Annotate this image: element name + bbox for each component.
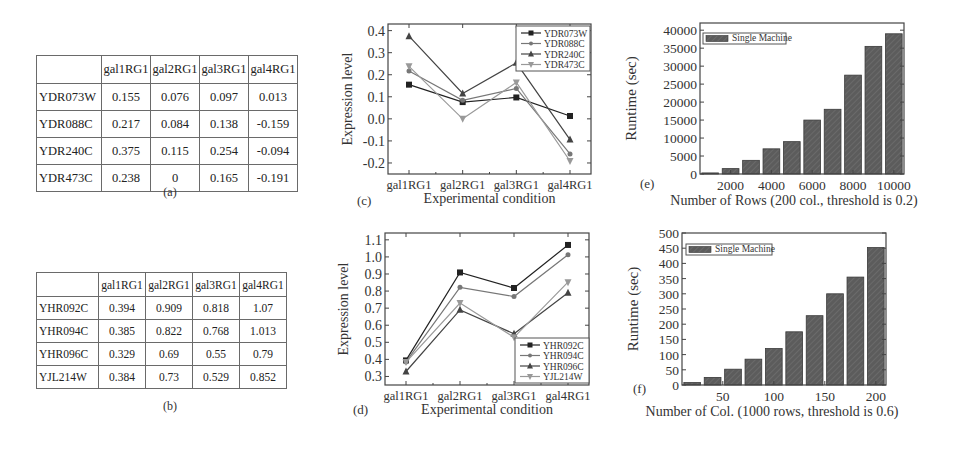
panel-label: (c) [357, 193, 371, 208]
y-tick-label: 150 [659, 332, 680, 347]
bar-chart-e: 4000035000300002500020000150001000050000… [623, 23, 918, 209]
line-chart-c: 0.40.30.20.10.0-0.1-0.2gal1RG1gal2RG1gal… [340, 24, 593, 208]
x-tick-label: gal4RG1 [547, 178, 592, 192]
y-tick-label: 1.1 [365, 233, 383, 248]
x-tick-label: gal2RG1 [437, 389, 482, 403]
x-axis-label: Number of Rows (200 col., threshold is 0… [670, 193, 918, 209]
legend-entry: YDR073W [544, 29, 587, 39]
x-tick-label: 100 [764, 389, 785, 404]
y-tick-label: 40000 [663, 23, 697, 38]
y-tick-label: 250 [659, 302, 680, 317]
bar [845, 75, 862, 174]
legend-entry: Single Machine [732, 33, 792, 43]
bar [704, 377, 721, 385]
y-tick-label: -0.2 [363, 156, 385, 171]
x-tick-label: gal1RG1 [386, 178, 431, 192]
y-axis-label: Runtime (sec) [623, 56, 640, 141]
legend-entry: YHR096C [543, 362, 584, 372]
legend-entry: YHR094C [543, 351, 584, 361]
bar-chart-f: 5004504003503002502001501005005010015020… [625, 226, 899, 420]
y-tick-label: 20000 [663, 95, 697, 110]
y-tick-label: 0.5 [365, 335, 383, 350]
y-tick-label: 50 [666, 363, 680, 378]
y-tick-label: 35000 [663, 41, 697, 56]
legend-entry: YDR088C [544, 39, 585, 49]
bar [824, 109, 841, 174]
y-tick-label: 1.0 [365, 250, 383, 265]
y-tick-label: 10000 [663, 131, 697, 146]
y-tick-label: 350 [659, 272, 680, 287]
x-axis-label: Number of Col. (1000 rows, threshold is … [646, 404, 899, 420]
y-tick-label: 0.2 [368, 68, 386, 83]
y-tick-label: 0 [690, 167, 697, 182]
legend-entry: YDR473C [544, 60, 585, 70]
x-tick-label: gal1RG1 [383, 389, 428, 403]
y-tick-label: 5000 [670, 149, 697, 164]
x-tick-label: gal4RG1 [545, 389, 590, 403]
y-tick-label: 0.4 [365, 352, 383, 367]
legend-entry: Single Machine [715, 244, 775, 254]
bar [725, 369, 742, 385]
x-tick-label: 4000 [758, 178, 785, 193]
y-tick-label: 0 [672, 378, 679, 393]
x-tick-label: 50 [716, 389, 730, 404]
y-tick-label: 0.1 [368, 90, 386, 105]
y-tick-label: 500 [659, 226, 680, 241]
y-tick-label: 0.3 [365, 369, 383, 384]
bar [885, 34, 902, 174]
panel-label: (d) [353, 402, 368, 417]
y-axis-label: Runtime (sec) [625, 267, 642, 352]
chart-legend: YDR073WYDR088CYDR240CYDR473C [516, 26, 590, 71]
bar [786, 332, 803, 385]
y-tick-label: 15000 [663, 113, 697, 128]
x-tick-label: gal3RG1 [491, 389, 536, 403]
legend-entry: YHR092C [543, 341, 584, 351]
bar [806, 316, 823, 385]
y-tick-label: 200 [659, 317, 680, 332]
bar [743, 160, 760, 174]
panel-label: (e) [640, 176, 654, 191]
bar [827, 294, 844, 385]
bar [765, 349, 782, 385]
x-tick-label: 8000 [840, 178, 867, 193]
y-tick-label: 0.6 [365, 318, 383, 333]
chart-legend: Single Machine [686, 244, 775, 255]
x-tick-label: gal3RG1 [494, 178, 539, 192]
legend-entry: YDR240C [544, 50, 585, 60]
bar [783, 142, 800, 174]
y-tick-label: 0.7 [365, 301, 383, 316]
panel-label: (f) [633, 381, 646, 396]
chart-legend: YHR092CYHR094CYHR096CYJL214W [515, 338, 589, 383]
bar [847, 277, 864, 385]
x-tick-label: 150 [815, 389, 836, 404]
bar [867, 248, 884, 385]
series-YDR088C [407, 68, 573, 156]
x-axis-label: Experimental condition [424, 191, 556, 206]
x-tick-label: 10000 [877, 178, 911, 193]
y-tick-label: 30000 [663, 59, 697, 74]
y-tick-label: 25000 [663, 77, 697, 92]
y-axis-label: Expression level [336, 262, 351, 355]
y-tick-label: 300 [659, 287, 680, 302]
y-tick-label: 450 [659, 241, 680, 256]
y-tick-label: 400 [659, 256, 680, 271]
y-tick-label: 0.9 [365, 267, 383, 282]
x-tick-label: 6000 [799, 178, 826, 193]
x-tick-label: 200 [866, 389, 887, 404]
legend-entry: YJL214W [543, 372, 583, 382]
bar [745, 359, 762, 385]
x-axis-label: Experimental condition [421, 402, 553, 417]
x-tick-label: gal2RG1 [440, 178, 485, 192]
line-chart-d: 1.11.00.90.80.70.60.50.40.3gal1RG1gal2RG… [336, 233, 591, 417]
x-tick-label: 2000 [717, 178, 744, 193]
y-axis-label: Expression level [340, 52, 355, 145]
line-chart-c: 0.40.30.20.10.0-0.1-0.2gal1RG1gal2RG1gal… [0, 0, 956, 452]
y-tick-label: 0.8 [365, 284, 383, 299]
y-tick-label: -0.1 [363, 134, 385, 149]
y-tick-label: 0.4 [368, 24, 386, 39]
chart-legend: Single Machine [703, 33, 792, 44]
y-tick-label: 0.0 [368, 112, 386, 127]
y-tick-label: 0.3 [368, 46, 386, 61]
bar [865, 46, 882, 174]
y-tick-label: 100 [659, 348, 680, 363]
